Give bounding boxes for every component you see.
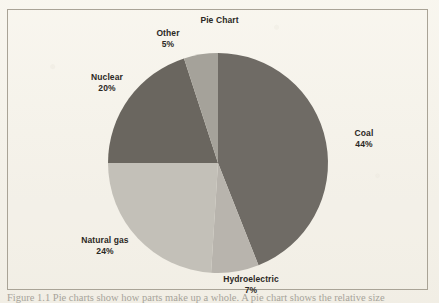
pie-chart-figure: Pie Chart Other 5% Nuclear 20% Coal 44% … [0, 0, 439, 303]
slice-label-nuclear-value: 20% [68, 83, 146, 94]
slice-label-coal: Coal 44% [333, 128, 395, 150]
slice-label-nuclear-name: Nuclear [91, 72, 123, 82]
slice-label-nuclear: Nuclear 20% [68, 72, 146, 94]
figure-caption-clipped: Figure 1.1 Pie charts show how parts mak… [0, 293, 439, 303]
figure-caption-text: Figure 1.1 Pie charts show how parts mak… [7, 293, 437, 303]
slice-label-other-name: Other [156, 28, 179, 38]
slice-label-coal-name: Coal [355, 128, 374, 138]
slice-label-hydroelectric-name: Hydroelectric [223, 274, 279, 284]
slice-label-other-value: 5% [133, 39, 203, 50]
scanned-page: Pie Chart Other 5% Nuclear 20% Coal 44% … [0, 0, 439, 303]
slice-label-natural-gas: Natural gas 24% [57, 235, 153, 257]
slice-label-coal-value: 44% [333, 139, 395, 150]
slice-label-natural-gas-name: Natural gas [81, 235, 128, 245]
pie-chart-graphic [0, 0, 439, 303]
slice-label-other: Other 5% [133, 28, 203, 50]
slice-label-natural-gas-value: 24% [57, 246, 153, 257]
